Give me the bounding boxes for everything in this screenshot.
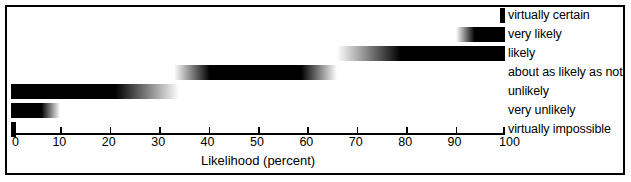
x-tick-100: [503, 127, 505, 133]
x-axis-title: Likelihood (percent): [11, 153, 505, 168]
bar-unlikely: [11, 84, 179, 99]
label-very-likely: very likely: [508, 27, 562, 42]
x-tick-label-60: 60: [299, 136, 313, 149]
x-tick-label-80: 80: [398, 136, 412, 149]
x-tick-label-90: 90: [448, 136, 462, 149]
label-very-unlikely: very unlikely: [508, 103, 575, 118]
x-tick-20: [110, 127, 112, 133]
x-tick-label-0: 0: [12, 136, 19, 149]
x-tick-40: [209, 127, 211, 133]
plot-area: [11, 8, 505, 132]
x-tick-10: [60, 127, 62, 133]
label-virtually-impossible: virtually impossible: [508, 122, 611, 137]
x-tick-60: [307, 127, 309, 133]
x-tick-30: [159, 127, 161, 133]
x-tick-50: [258, 127, 260, 133]
x-tick-label-100: 100: [499, 136, 520, 149]
label-about-as-likely-as-not: about as likely as not: [508, 65, 623, 80]
x-tick-label-30: 30: [151, 136, 165, 149]
bar-about-as-likely-as-not: [174, 65, 337, 80]
x-tick-label-10: 10: [52, 136, 66, 149]
x-tick-70: [357, 127, 359, 133]
x-tick-label-70: 70: [349, 136, 363, 149]
bar-likely: [337, 46, 505, 61]
label-likely: likely: [508, 46, 535, 61]
x-tick-label-20: 20: [102, 136, 116, 149]
bar-very-likely: [456, 27, 505, 42]
likelihood-scale-figure: virtually certain very likely likely abo…: [0, 0, 631, 182]
x-tick-label-50: 50: [250, 136, 264, 149]
label-virtually-certain: virtually certain: [508, 8, 590, 23]
bar-virtually-certain: [500, 8, 505, 23]
x-tick-0: [11, 127, 13, 133]
term-label-column: virtually certain very likely likely abo…: [508, 8, 626, 132]
x-tick-label-40: 40: [201, 136, 215, 149]
bar-very-unlikely: [11, 103, 60, 118]
label-unlikely: unlikely: [508, 84, 549, 99]
x-tick-90: [456, 127, 458, 133]
x-tick-80: [406, 127, 408, 133]
